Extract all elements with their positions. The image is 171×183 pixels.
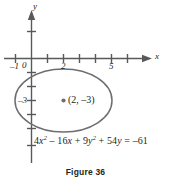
- x-tick-label-2: 2: [61, 62, 66, 71]
- figure-caption: Figure 36: [0, 167, 171, 177]
- x-axis-label: x: [155, 52, 159, 61]
- figure-container: x y –1 0 2 5 –3 (2, –3) 4x2 – 16x + 9y2 …: [0, 0, 171, 183]
- y-axis-arrow-icon: [28, 10, 35, 20]
- coordinate-plot: [0, 0, 171, 183]
- eq-tail: = –61: [122, 135, 148, 146]
- eq-mid-1: – 16: [47, 135, 68, 146]
- x-tick-label-neg1: –1: [10, 62, 19, 71]
- equation-label: 4x2 – 16x + 9y2 + 54y = –61: [34, 136, 148, 146]
- eq-mid-3: + 54: [96, 135, 117, 146]
- eq-mid-2: + 9: [72, 135, 88, 146]
- x-tick-label-5: 5: [109, 62, 114, 71]
- center-point-label: (2, –3): [68, 95, 95, 105]
- y-axis-label: y: [33, 2, 37, 11]
- center-point-marker: [61, 98, 65, 102]
- x-tick-label-0: 0: [22, 61, 27, 70]
- x-axis-arrow-icon: [142, 55, 152, 62]
- y-tick-label-neg3: –3: [18, 96, 27, 105]
